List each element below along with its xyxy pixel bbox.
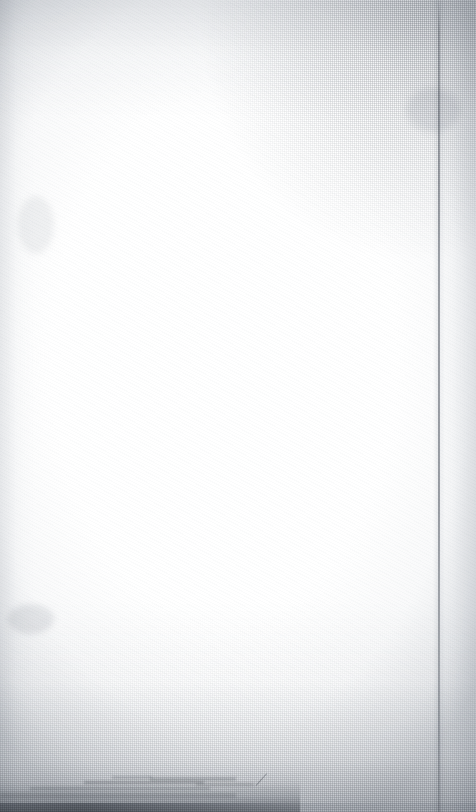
scanned-page	[0, 0, 476, 812]
vertical-fold-crease	[438, 0, 440, 812]
stain-streak	[112, 776, 152, 779]
scan-bed-lip	[0, 803, 476, 812]
stain-streak	[30, 787, 210, 790]
edge-shadow-top	[0, 0, 476, 120]
stain-streak	[196, 783, 254, 786]
stain-streak	[84, 781, 204, 784]
stain-streak	[150, 777, 236, 781]
stain-streak	[0, 793, 236, 798]
